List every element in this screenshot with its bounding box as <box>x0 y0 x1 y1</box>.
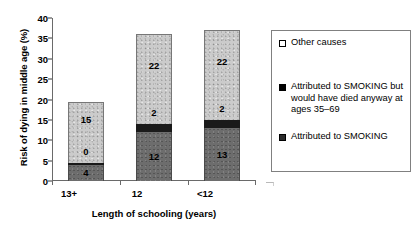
y-axis-line <box>52 18 53 181</box>
bar-segment-label-anyway-13plus: 0 <box>69 147 103 157</box>
bar-group-12: 12 2 22 <box>136 34 172 181</box>
y-tick-label-40: 40 <box>37 13 48 24</box>
bar-segment-label-other-lt12: 22 <box>205 57 239 67</box>
bar-segment-label-smoking-12: 12 <box>149 152 160 162</box>
bar-segment-smoking-lt12: 13 <box>204 128 240 181</box>
y-tick-mark-35 <box>48 38 52 39</box>
chart-legend: Other causes Attributed to SMOKING but w… <box>271 30 411 172</box>
bar-segment-label-other-12: 22 <box>137 61 171 71</box>
y-tick-mark-10 <box>48 140 52 141</box>
legend-label-attributed-smoking: Attributed to SMOKING <box>291 131 388 143</box>
x-tick-mark-2 <box>188 181 189 185</box>
bar-segment-anyway-13plus: 0 <box>68 163 104 165</box>
y-tick-mark-15 <box>48 119 52 120</box>
y-tick-label-10: 10 <box>37 135 48 146</box>
filled-black-square-marker-icon <box>279 84 286 91</box>
bar-segment-label-anyway-lt12: 2 <box>205 104 239 114</box>
bar-segment-label-smoking-13plus: 4 <box>83 168 88 178</box>
bar-segment-smoking-13plus: 4 <box>68 165 104 181</box>
bar-segment-anyway-lt12: 2 <box>204 120 240 128</box>
bar-group-lt12: 13 2 22 <box>204 30 240 181</box>
legend-item-other-causes: Other causes <box>279 37 405 49</box>
scan-artifact <box>266 182 274 186</box>
y-tick-label-20: 20 <box>37 94 48 105</box>
legend-label-attributed-smoking-died-anyway: Attributed to SMOKING but would have die… <box>291 81 405 116</box>
bar-segment-label-smoking-lt12: 13 <box>217 150 228 160</box>
y-tick-mark-5 <box>48 160 52 161</box>
y-tick-label-5: 5 <box>43 155 48 166</box>
legend-item-attributed-smoking: Attributed to SMOKING <box>279 131 405 143</box>
legend-item-attributed-smoking-died-anyway: Attributed to SMOKING but would have die… <box>279 81 405 116</box>
x-tick-label-12: 12 <box>102 188 172 199</box>
y-tick-mark-25 <box>48 79 52 80</box>
x-tick-mark-1 <box>120 181 121 185</box>
bar-segment-label-other-13plus: 15 <box>69 115 103 125</box>
y-tick-label-30: 30 <box>37 53 48 64</box>
stacked-bar-chart-figure: Risk of dying in middle age (%) 40 35 30… <box>0 0 418 237</box>
x-tick-label-13plus: 13+ <box>34 188 104 199</box>
y-tick-label-35: 35 <box>37 33 48 44</box>
x-tick-label-lt12: <12 <box>170 188 240 199</box>
legend-label-other-causes: Other causes <box>291 37 346 49</box>
x-axis-title: Length of schooling (years) <box>52 208 256 219</box>
y-tick-mark-40 <box>48 18 52 19</box>
x-tick-mark-start <box>52 181 53 185</box>
y-tick-mark-30 <box>48 58 52 59</box>
bar-segment-anyway-12: 2 <box>136 124 172 132</box>
bar-segment-label-anyway-12: 2 <box>137 108 171 118</box>
y-tick-label-0: 0 <box>43 176 48 187</box>
y-axis-title: Risk of dying in middle age (%) <box>18 8 29 188</box>
open-square-marker-icon <box>279 40 286 47</box>
x-tick-mark-end <box>255 181 256 185</box>
bar-segment-smoking-12: 12 <box>136 132 172 181</box>
y-tick-mark-20 <box>48 99 52 100</box>
y-tick-label-15: 15 <box>37 114 48 125</box>
y-tick-label-25: 25 <box>37 74 48 85</box>
bar-group-13plus: 4 0 15 <box>68 102 104 181</box>
filled-gray-square-marker-icon <box>279 134 286 141</box>
plot-area: 40 35 30 25 20 15 10 5 0 4 0 <box>52 18 256 181</box>
